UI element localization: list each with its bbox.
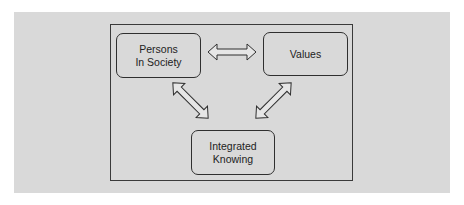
node-integrated-knowing-line1: Integrated [209, 140, 256, 153]
diagram-page: Persons In Society Values Integrated Kno… [0, 0, 464, 205]
node-values-label: Values [290, 48, 321, 61]
node-integrated-knowing: Integrated Knowing [191, 130, 275, 175]
node-persons-in-society-line2: In Society [135, 56, 181, 69]
node-integrated-knowing-line2: Knowing [209, 153, 256, 166]
node-values: Values [263, 32, 348, 76]
node-persons-in-society: Persons In Society [116, 33, 201, 78]
node-persons-in-society-line1: Persons [135, 43, 181, 56]
